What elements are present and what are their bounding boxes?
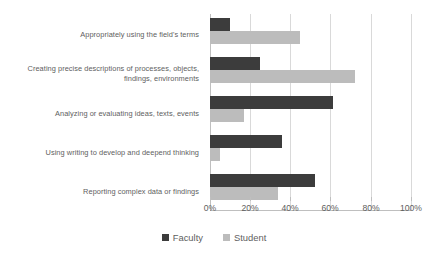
tick-mark-100: [411, 197, 412, 201]
bar-chart: Appropriately using the field's terms Cr…: [0, 0, 428, 265]
gridline-80: [371, 14, 372, 210]
tick-mark-80: [371, 197, 372, 201]
tick-mark-0: [210, 197, 211, 201]
bar-faculty-3: [210, 135, 282, 148]
tick-mark-40: [290, 197, 291, 201]
category-label: Using writing to develop and deepend thi…: [0, 148, 199, 158]
category-label: Reporting complex data or findings: [0, 187, 199, 197]
gridline-100: [411, 14, 412, 210]
category-label: Analyzing or evaluating ideas, texts, ev…: [0, 109, 199, 119]
plot-area: [210, 14, 411, 210]
bar-student-0: [210, 31, 300, 44]
tick-label-100: 100%: [400, 203, 422, 213]
bar-faculty-4: [210, 174, 315, 187]
chart-legend: Faculty Student: [0, 232, 428, 243]
legend-label-student: Student: [234, 232, 266, 243]
tick-label-40: 40%: [281, 203, 298, 213]
tick-label-0: 0%: [204, 203, 216, 213]
legend-label-faculty: Faculty: [173, 232, 203, 243]
tick-label-20: 20%: [241, 203, 258, 213]
legend-item-faculty: Faculty: [162, 232, 203, 243]
category-label: Creating precise descriptions of process…: [0, 64, 199, 83]
tick-label-80: 80%: [362, 203, 379, 213]
legend-swatch-icon: [162, 234, 169, 241]
tick-label-60: 60%: [321, 203, 338, 213]
tick-mark-60: [330, 197, 331, 201]
legend-item-student: Student: [223, 232, 266, 243]
bar-student-1: [210, 70, 355, 83]
tick-mark-20: [250, 197, 251, 201]
bar-student-2: [210, 109, 244, 122]
legend-swatch-icon: [223, 234, 230, 241]
value-axis-ticks: 0% 20% 40% 60% 80% 100%: [210, 197, 411, 219]
category-label: Appropriately using the field's terms: [0, 30, 199, 40]
bar-faculty-2: [210, 96, 333, 109]
bar-student-3: [210, 148, 220, 161]
category-axis-labels: Appropriately using the field's terms Cr…: [0, 14, 205, 210]
bar-faculty-0: [210, 18, 230, 31]
bar-faculty-1: [210, 57, 260, 70]
gridline-60: [330, 14, 331, 210]
